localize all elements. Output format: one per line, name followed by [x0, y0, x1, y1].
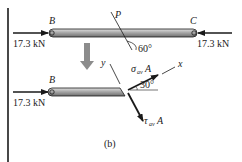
label-c: C: [190, 15, 197, 26]
axis-y-label: y: [100, 57, 106, 68]
left-force-value: 17.3 kN: [13, 38, 45, 49]
angle-30-label: 30°: [140, 79, 154, 90]
plane-label-p: P: [114, 9, 121, 20]
free-body-diagram: B C 17.3 kN 17.3 kN P 60° B 17.3 kN y x …: [0, 0, 242, 162]
section-left-force-value: 17.3 kN: [13, 97, 45, 108]
y-axis-line: [110, 64, 120, 84]
svg-text:A: A: [144, 63, 152, 74]
section-bar: [48, 88, 125, 96]
x-axis-line: [162, 67, 175, 74]
diagram-canvas: B C 17.3 kN 17.3 kN P 60° B 17.3 kN y x …: [0, 0, 242, 162]
down-arrow-icon: [80, 43, 94, 70]
svg-text:A: A: [156, 115, 164, 126]
shear-force-label: τ av A: [144, 115, 164, 127]
normal-force-label: σ av A: [131, 63, 152, 75]
figure-caption: (b): [104, 138, 116, 150]
label-b: B: [49, 15, 55, 26]
shear-force-arrow-icon: [128, 93, 143, 121]
top-member: B C 17.3 kN 17.3 kN P 60°: [13, 9, 232, 54]
right-force-value: 17.3 kN: [197, 38, 229, 49]
plane-angle-label: 60°: [138, 43, 152, 54]
svg-text:av: av: [149, 121, 155, 127]
axis-x-label: x: [177, 58, 183, 69]
svg-text:τ: τ: [144, 115, 148, 126]
svg-text:av: av: [137, 69, 143, 75]
section-label-b: B: [49, 74, 55, 85]
angle-arc-30: [136, 87, 137, 90]
sectioned-member: B 17.3 kN y x 30° σ av A τ av A: [13, 57, 183, 127]
